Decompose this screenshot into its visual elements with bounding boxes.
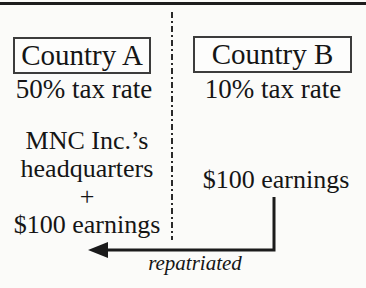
country-b-box: Country B xyxy=(193,36,352,73)
country-a-box: Country A xyxy=(13,37,151,74)
repatriated-label: repatriated xyxy=(148,251,242,276)
country-a-tax-rate: 50% tax rate xyxy=(16,74,152,105)
country-a-label: Country A xyxy=(21,39,143,72)
arrow-line xyxy=(106,197,274,250)
mnc-line-2: headquarters xyxy=(14,155,161,183)
repatriation-arrow xyxy=(80,190,290,260)
arrow-head-icon xyxy=(88,242,108,258)
country-b-label: Country B xyxy=(212,38,334,71)
mnc-line-1: MNC Inc.’s xyxy=(14,127,161,155)
tax-repatriation-diagram: Country A Country B 50% tax rate 10% tax… xyxy=(0,0,366,288)
top-border-rule xyxy=(0,2,366,5)
country-b-tax-rate: 10% tax rate xyxy=(205,74,341,105)
